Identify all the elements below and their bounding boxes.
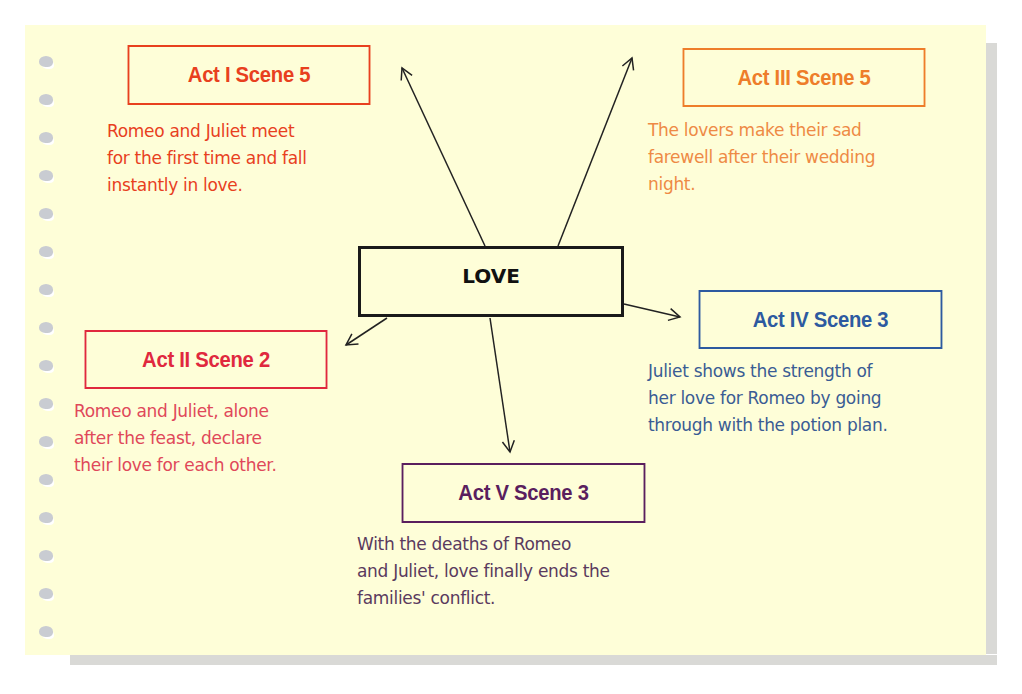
binding-hole-icon <box>39 56 53 67</box>
node-act4-scene3-text: Juliet shows the strength of her love fo… <box>648 358 888 439</box>
text-line: instantly in love. <box>107 172 307 199</box>
binding-hole-icon <box>39 284 53 295</box>
node-act2-scene2-box: Act II Scene 2 <box>85 330 328 389</box>
text-line: after the feast, declare <box>74 425 277 452</box>
paper-shadow-bottom <box>70 655 997 665</box>
binding-hole-icon <box>39 208 53 219</box>
node-act4-scene3-box: Act IV Scene 3 <box>699 290 943 349</box>
text-line: families' conflict. <box>357 585 610 612</box>
node-act5-scene3-text: With the deaths of Romeo and Juliet, lov… <box>357 531 610 612</box>
binding-hole-icon <box>39 626 53 637</box>
text-line: Juliet shows the strength of <box>648 358 888 385</box>
text-line: and Juliet, love finally ends the <box>357 558 610 585</box>
text-line: night. <box>648 171 875 198</box>
node-title: Act IV Scene 3 <box>753 307 889 333</box>
node-act1-scene5-text: Romeo and Juliet meet for the first time… <box>107 118 307 199</box>
text-line: her love for Romeo by going <box>648 385 888 412</box>
binding-hole-icon <box>39 398 53 409</box>
text-line: their love for each other. <box>74 452 277 479</box>
paper-shadow-right <box>986 43 997 654</box>
node-act2-scene2-text: Romeo and Juliet, alone after the feast,… <box>74 398 277 479</box>
node-title: Act III Scene 5 <box>737 65 870 91</box>
text-line: Romeo and Juliet meet <box>107 118 307 145</box>
text-line: through with the potion plan. <box>648 412 888 439</box>
center-node-love: LOVE <box>358 246 624 317</box>
center-node-label: LOVE <box>462 264 520 288</box>
node-title: Act I Scene 5 <box>188 62 310 88</box>
binding-hole-icon <box>39 94 53 105</box>
binding-hole-icon <box>39 588 53 599</box>
text-line: for the first time and fall <box>107 145 307 172</box>
binding-hole-icon <box>39 246 53 257</box>
text-line: The lovers make their sad <box>648 117 875 144</box>
text-line: With the deaths of Romeo <box>357 531 610 558</box>
text-line: farewell after their wedding <box>648 144 875 171</box>
binding-hole-icon <box>39 474 53 485</box>
node-title: Act II Scene 2 <box>142 347 270 373</box>
binding-hole-icon <box>39 550 53 561</box>
binding-hole-icon <box>39 512 53 523</box>
node-act3-scene5-box: Act III Scene 5 <box>683 48 926 107</box>
node-act1-scene5-box: Act I Scene 5 <box>128 45 371 105</box>
binding-hole-icon <box>39 322 53 333</box>
binding-hole-icon <box>39 360 53 371</box>
node-act3-scene5-text: The lovers make their sad farewell after… <box>648 117 875 198</box>
binding-hole-icon <box>39 436 53 447</box>
text-line: Romeo and Juliet, alone <box>74 398 277 425</box>
binding-hole-icon <box>39 132 53 143</box>
binding-hole-icon <box>39 170 53 181</box>
node-act5-scene3-box: Act V Scene 3 <box>402 463 646 523</box>
node-title: Act V Scene 3 <box>458 480 588 506</box>
